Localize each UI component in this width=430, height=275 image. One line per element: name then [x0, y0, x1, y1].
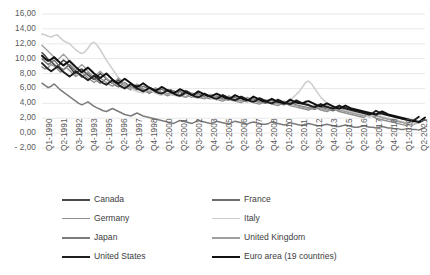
legend-item[interactable]: Canada: [62, 190, 212, 209]
legend-label: Euro area (19 countries): [244, 252, 337, 261]
legend-label: Italy: [244, 214, 260, 223]
chart-container: 16,0014,0012,0010,008,006,004,002,000,00…: [0, 0, 430, 275]
x-axis-tick-label: Q3-1992: [76, 118, 84, 151]
x-axis-tick-label: Q1-2010: [286, 118, 294, 151]
x-axis-tick-label: Q4-2003: [211, 118, 219, 151]
x-axis-tick-label: Q1-2015: [346, 118, 354, 151]
x-axis-tick-label: Q4-2018: [391, 118, 399, 151]
legend-label: United Kingdom: [244, 233, 305, 242]
legend-item[interactable]: United Kingdom: [212, 228, 422, 247]
legend-item[interactable]: United States: [62, 247, 212, 266]
legend-swatch: [62, 218, 90, 219]
x-axis-tick-label: Q2-1991: [61, 118, 69, 151]
x-axis-tick-label: Q3-2002: [196, 118, 204, 151]
x-axis-tick-label: Q4-2013: [331, 118, 339, 151]
x-axis-tick-label: Q2-2011: [301, 119, 309, 151]
x-axis-tick-label: Q1-2005: [226, 118, 234, 151]
x-axis-tick-label: Q2-1996: [121, 118, 129, 151]
x-axis-tick-label: Q4-1993: [91, 118, 99, 151]
x-axis-tick-label: Q3-1997: [136, 118, 144, 151]
legend-label: Germany: [94, 214, 129, 223]
x-axis-tick-label: Q2-2006: [241, 118, 249, 151]
x-axis-tick-label: Q4-2008: [271, 118, 279, 151]
legend-label: France: [244, 195, 271, 204]
legend-swatch: [212, 199, 240, 201]
legend-item[interactable]: Japan: [62, 228, 212, 247]
x-axis-tick-label: Q1-2020: [406, 118, 414, 151]
plot-area: 16,0014,0012,0010,008,006,004,002,000,00…: [0, 0, 430, 160]
legend-label: United States: [94, 252, 146, 261]
legend-item[interactable]: Italy: [212, 209, 422, 228]
legend-swatch: [62, 256, 90, 258]
legend-swatch: [212, 218, 240, 219]
x-axis-tick-label: Q1-1995: [106, 118, 114, 151]
x-axis-tick-label: Q3-2007: [256, 118, 264, 151]
legend-swatch: [212, 237, 240, 239]
legend-swatch: [212, 256, 240, 258]
x-axis-tick-label: Q1-2000: [166, 118, 174, 151]
legend-item[interactable]: Germany: [62, 209, 212, 228]
legend-swatch: [62, 199, 90, 201]
legend-label: Canada: [94, 195, 124, 204]
x-axis-tick-label: Q4-1998: [151, 118, 159, 151]
x-axis-tick-labels: Q1-1990Q2-1991Q3-1992Q4-1993Q1-1995Q2-19…: [0, 0, 430, 160]
x-axis-tick-label: Q3-2017: [376, 118, 384, 151]
legend-item[interactable]: France: [212, 190, 422, 209]
x-axis-tick-label: Q2-2021: [421, 118, 429, 151]
legend-label: Japan: [94, 233, 117, 242]
x-axis-tick-label: Q1-1990: [46, 118, 54, 151]
x-axis-tick-label: Q3-2012: [316, 118, 324, 151]
x-axis-tick-label: Q2-2001: [181, 118, 189, 151]
legend-swatch: [62, 237, 90, 239]
legend-item[interactable]: Euro area (19 countries): [212, 247, 422, 266]
x-axis-tick-label: Q2-2016: [361, 118, 369, 151]
chart-legend: CanadaFranceGermanyItalyJapanUnited King…: [62, 190, 422, 270]
